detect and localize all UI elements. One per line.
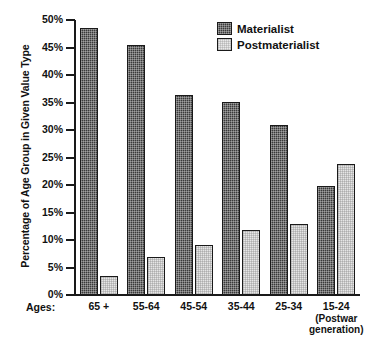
bar-materialist: [317, 186, 335, 295]
x-axis-prefix-label: Ages:: [26, 301, 55, 313]
category-sublabel-line2: generation): [296, 324, 372, 336]
y-axis-tick: [66, 129, 75, 131]
y-axis-tick: [66, 267, 75, 269]
y-axis-tick-label: 5%: [17, 262, 63, 273]
bar-materialist: [222, 102, 240, 295]
plot-area: [75, 20, 360, 295]
x-axis-category-label: 15-24(Postwargeneration): [296, 301, 372, 336]
bar-postmaterialist: [242, 230, 260, 295]
y-axis-tick-label: 45%: [17, 42, 63, 53]
materialist-swatch-icon: [217, 22, 232, 35]
bar-chart: Percentage of Age Group in Given Value T…: [0, 0, 372, 351]
category-sublabel-line1: (Postwar: [296, 313, 372, 325]
bar-postmaterialist: [147, 257, 165, 295]
bar-postmaterialist: [100, 276, 118, 295]
chart-legend: Materialist Postmaterialist: [217, 21, 319, 53]
y-axis-tick: [66, 184, 75, 186]
bar-postmaterialist: [195, 245, 213, 295]
y-axis-tick: [66, 47, 75, 49]
y-axis-tick: [66, 74, 75, 76]
y-axis-tick: [66, 239, 75, 241]
y-axis-tick: [66, 157, 75, 159]
y-axis-tick-label: 35%: [17, 97, 63, 108]
bar-materialist: [127, 45, 145, 295]
y-axis-tick: [66, 212, 75, 214]
y-axis-tick-label: 0%: [17, 289, 63, 300]
bar-materialist: [270, 125, 288, 296]
y-axis-tick-label: 15%: [17, 207, 63, 218]
y-axis-tick-label: 20%: [17, 179, 63, 190]
y-axis-tick: [66, 102, 75, 104]
y-axis-tick-label: 40%: [17, 69, 63, 80]
y-axis-tick: [66, 294, 75, 296]
bar-postmaterialist: [337, 164, 355, 295]
legend-label-postmaterialist: Postmaterialist: [237, 39, 319, 51]
y-axis-tick-label: 25%: [17, 152, 63, 163]
y-axis-tick-label: 10%: [17, 234, 63, 245]
legend-label-materialist: Materialist: [237, 23, 294, 35]
postmaterialist-swatch-icon: [217, 38, 232, 51]
legend-item-postmaterialist[interactable]: Postmaterialist: [217, 37, 319, 52]
legend-item-materialist[interactable]: Materialist: [217, 21, 319, 36]
bar-materialist: [80, 28, 98, 295]
y-axis-tick-label: 30%: [17, 124, 63, 135]
bar-materialist: [175, 95, 193, 295]
y-axis-tick-label: 50%: [17, 14, 63, 25]
y-axis-tick: [66, 19, 75, 21]
category-label-text: 15-24: [323, 300, 350, 312]
bar-postmaterialist: [290, 224, 308, 296]
